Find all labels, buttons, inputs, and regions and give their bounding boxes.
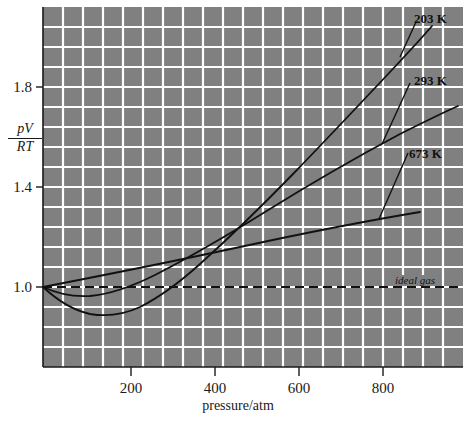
chart-figure: 1.8 1.4 1.0 pV RT 200 400 600 800 pressu… xyxy=(0,0,476,434)
y-tick-marks xyxy=(36,87,43,287)
curve-label-673k: 673 K xyxy=(409,147,442,160)
curve-label-203k: 203 K xyxy=(414,12,447,25)
x-tick-label-200: 200 xyxy=(101,381,161,396)
y-tick-label-1-8: 1.8 xyxy=(0,80,32,95)
curve-label-ideal-gas: ideal gas xyxy=(393,275,437,286)
x-axis-label: pressure/atm xyxy=(0,398,476,414)
x-tick-label-400: 400 xyxy=(185,381,245,396)
y-axis-label-numerator: pV xyxy=(8,122,42,139)
y-axis-label-denominator: RT xyxy=(8,139,42,155)
y-tick-label-1-0: 1.0 xyxy=(0,280,32,295)
y-axis-label: pV RT xyxy=(8,122,42,154)
y-tick-label-1-4: 1.4 xyxy=(0,180,32,195)
curve-label-293k: 293 K xyxy=(414,74,447,87)
x-tick-label-600: 600 xyxy=(269,381,329,396)
compressibility-plot xyxy=(0,0,476,434)
x-tick-label-800: 800 xyxy=(353,381,413,396)
x-tick-marks xyxy=(131,367,383,376)
